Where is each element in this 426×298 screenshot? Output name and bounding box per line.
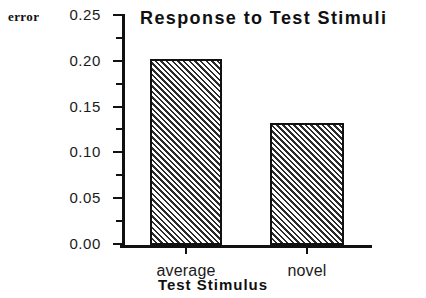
y-tick-major: 0.15 — [113, 106, 122, 108]
x-axis-line — [120, 245, 372, 248]
bar-novel — [270, 123, 344, 245]
y-tick-major: 0.00 — [113, 243, 122, 245]
y-tick-minor — [116, 128, 122, 130]
y-tick-label: 0.05 — [69, 189, 101, 206]
y-tick-major: 0.10 — [113, 151, 122, 153]
y-axis-label: error — [8, 9, 39, 25]
y-tick-minor — [116, 220, 122, 222]
plot-area: 0.00 0.05 0.10 0.15 0.20 0.25 average — [122, 14, 372, 245]
y-tick-minor — [116, 37, 122, 39]
y-tick-label: 0.10 — [69, 143, 101, 160]
bar-average — [150, 59, 222, 245]
y-tick-major: 0.20 — [113, 60, 122, 62]
y-tick-major: 0.25 — [113, 14, 122, 16]
y-tick-label: 0.00 — [69, 235, 101, 252]
x-tick — [306, 246, 308, 254]
y-axis-line — [122, 14, 125, 245]
y-tick-major: 0.05 — [113, 197, 122, 199]
x-tick — [185, 246, 187, 254]
y-tick-minor — [116, 83, 122, 85]
chart-figure: error Response to Test Stimuli 0.00 0.05… — [0, 0, 426, 298]
y-tick-label: 0.20 — [69, 52, 101, 69]
y-tick-label: 0.15 — [69, 98, 101, 115]
y-tick-minor — [116, 174, 122, 176]
y-tick-label: 0.25 — [69, 6, 101, 23]
x-axis-label: Test Stimulus — [0, 276, 426, 293]
